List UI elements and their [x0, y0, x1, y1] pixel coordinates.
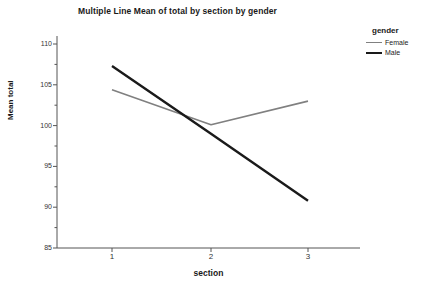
legend-swatch-female [366, 42, 382, 43]
legend-label: Female [385, 38, 408, 47]
legend-item-female[interactable]: Female [366, 38, 428, 47]
series-line-male [112, 66, 308, 201]
legend-item-male[interactable]: Male [366, 48, 428, 57]
legend: gender FemaleMale [366, 26, 428, 58]
line-chart: Multiple Line Mean of total by section b… [0, 0, 430, 289]
legend-title: gender [366, 26, 428, 35]
legend-label: Male [385, 48, 400, 57]
legend-swatch-male [366, 52, 382, 54]
series-line-female [112, 90, 308, 125]
